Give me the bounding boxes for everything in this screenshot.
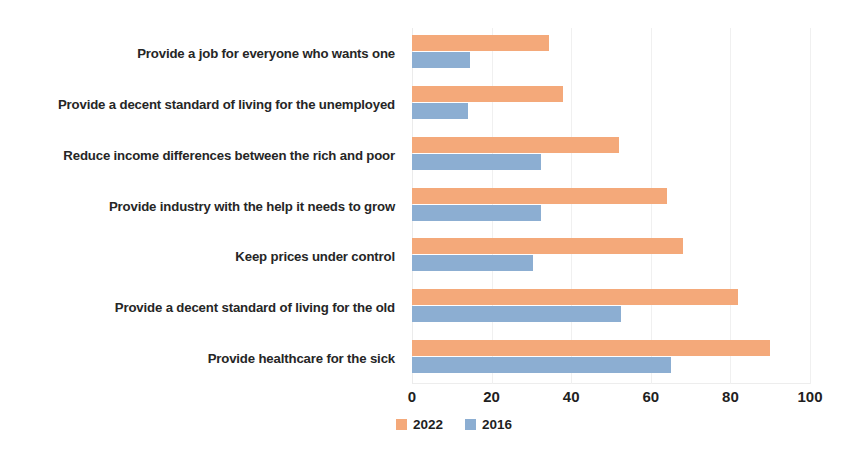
bar-row (412, 333, 810, 384)
bar-row (412, 79, 810, 130)
bar-2016[interactable] (412, 205, 541, 221)
category-label: Provide a job for everyone who wants one (0, 28, 404, 79)
bar-2022[interactable] (412, 35, 549, 51)
legend-item-2016[interactable]: 2016 (465, 417, 512, 432)
legend-item-2022[interactable]: 2022 (396, 417, 443, 432)
legend-label: 2022 (413, 417, 443, 432)
plot-area (412, 28, 810, 384)
legend-label: 2016 (482, 417, 512, 432)
bar-2016[interactable] (412, 357, 671, 373)
bar-row (412, 181, 810, 232)
legend-swatch-icon (396, 419, 407, 430)
category-label: Provide industry with the help it needs … (0, 181, 404, 232)
x-tick-label: 40 (563, 388, 580, 405)
bar-2022[interactable] (412, 86, 563, 102)
x-tick-label: 20 (483, 388, 500, 405)
bar-2022[interactable] (412, 238, 683, 254)
gridline (810, 28, 811, 384)
category-label: Reduce income differences between the ri… (0, 130, 404, 181)
x-tick-label: 80 (722, 388, 739, 405)
x-tick-label: 60 (642, 388, 659, 405)
bar-2016[interactable] (412, 103, 468, 119)
x-tick-label: 100 (797, 388, 822, 405)
bar-2022[interactable] (412, 188, 667, 204)
bar-row (412, 28, 810, 79)
bar-2022[interactable] (412, 137, 619, 153)
bar-2016[interactable] (412, 255, 533, 271)
bar-rows (412, 28, 810, 384)
category-axis-labels: Provide a job for everyone who wants one… (0, 28, 404, 384)
category-label: Provide a decent standard of living for … (0, 79, 404, 130)
legend-swatch-icon (465, 419, 476, 430)
bar-2016[interactable] (412, 52, 470, 68)
bar-2022[interactable] (412, 340, 770, 356)
category-label: Keep prices under control (0, 231, 404, 282)
x-tick-label: 0 (408, 388, 416, 405)
bar-row (412, 231, 810, 282)
bar-chart: Provide a job for everyone who wants one… (0, 0, 856, 458)
x-axis-tick-labels: 020406080100 (412, 388, 810, 412)
bar-row (412, 130, 810, 181)
chart-legend: 2022 2016 (0, 417, 856, 432)
category-label: Provide healthcare for the sick (0, 333, 404, 384)
bar-2022[interactable] (412, 289, 738, 305)
category-label: Provide a decent standard of living for … (0, 282, 404, 333)
bar-2016[interactable] (412, 306, 621, 322)
bar-2016[interactable] (412, 154, 541, 170)
bar-row (412, 282, 810, 333)
